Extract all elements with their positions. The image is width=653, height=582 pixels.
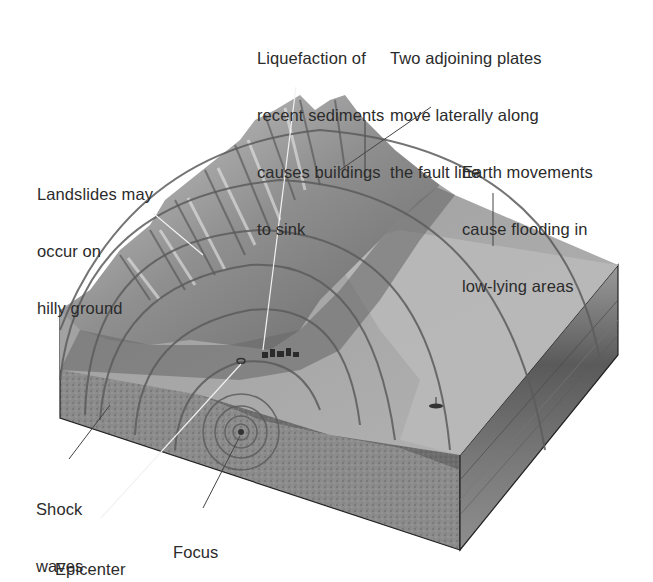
label-flooding: Earth movements cause flooding in low-ly… [462, 125, 593, 334]
label-line: Epicenter [55, 560, 126, 579]
label-line: recent sediments [257, 106, 384, 125]
label-line: Shock [36, 500, 83, 519]
label-line: occur on [37, 242, 153, 261]
label-liquefaction: Liquefaction of recent sediments causes … [257, 11, 384, 277]
label-line: Landslides may [37, 185, 153, 204]
label-focus: Focus [173, 505, 218, 582]
label-line: cause flooding in [462, 220, 593, 239]
label-line: move laterally along [390, 106, 542, 125]
label-line: Focus [173, 543, 218, 562]
label-epicenter: Epicenter [55, 522, 126, 582]
label-line: Liquefaction of [257, 49, 384, 68]
label-line: to sink [257, 220, 384, 239]
label-line: Earth movements [462, 163, 593, 182]
label-line: hilly ground [37, 299, 153, 318]
label-line: low-lying areas [462, 277, 593, 296]
label-line: Two adjoining plates [390, 49, 542, 68]
label-line: causes buildings [257, 163, 384, 182]
label-landslides: Landslides may occur on hilly ground [37, 147, 153, 356]
focus-point [238, 429, 244, 435]
